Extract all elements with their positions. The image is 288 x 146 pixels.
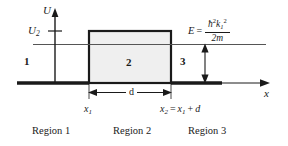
- x2-tick-label: x2=x1+d: [160, 104, 200, 116]
- energy-equation-lhs: E: [188, 25, 194, 36]
- potential-barrier-figure: U U2 x 1 2 3 E = ħ2k12 2m d x1 x2=x1+d R…: [0, 0, 288, 146]
- energy-equation-equals: =: [196, 25, 202, 36]
- x1-subscript: 1: [88, 108, 92, 116]
- energy-equation-fraction: ħ2k12 2m: [205, 18, 230, 44]
- x2-plus: +: [186, 103, 196, 114]
- x-axis-arrowhead: [260, 79, 270, 87]
- energy-equation-denominator: 2m: [209, 33, 227, 44]
- y-axis-tick-label: U2: [28, 25, 40, 38]
- region-number-3: 3: [180, 56, 186, 67]
- x2-equals: =: [168, 103, 178, 114]
- x1-tick-label: x1: [84, 104, 92, 116]
- y-axis-tick-symbol: U: [28, 24, 36, 36]
- u-axis-arrowhead: [52, 8, 59, 17]
- region-number-1: 1: [24, 56, 30, 67]
- caption-region-3: Region 3: [188, 126, 226, 137]
- x2-term-d: d: [195, 103, 200, 114]
- energy-equation: E = ħ2k12 2m: [188, 18, 230, 44]
- y-axis-tick-subscript: 2: [36, 29, 40, 38]
- barrier-width-label: d: [126, 87, 137, 97]
- energy-equation-numerator: ħ2k12: [205, 18, 230, 32]
- x-axis-label: x: [264, 88, 269, 99]
- caption-region-2: Region 2: [113, 126, 151, 137]
- k-exponent: 2: [224, 17, 227, 24]
- k-subscript: 1: [220, 23, 223, 30]
- y-axis-label: U: [43, 5, 51, 16]
- region-number-2: 2: [126, 57, 132, 68]
- caption-region-1: Region 1: [32, 126, 70, 137]
